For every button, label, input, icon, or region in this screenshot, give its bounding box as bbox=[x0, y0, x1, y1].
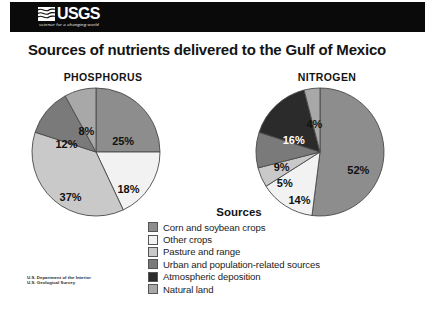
usgs-wave-icon bbox=[38, 7, 55, 21]
legend-item-label: Atmospheric deposition bbox=[163, 271, 261, 282]
usgs-wordmark: USGS bbox=[57, 6, 100, 21]
pie-slice[interactable] bbox=[312, 88, 384, 216]
pie-chart-nitrogen: NITROGEN 52%14%5%9%16%4% bbox=[252, 71, 402, 218]
legend-swatch bbox=[148, 259, 158, 269]
footer-survey: U.S. Geological Survey bbox=[27, 280, 91, 285]
legend-item-label: Corn and soybean crops bbox=[163, 222, 265, 233]
usgs-header-bar: USGS science for a changing world bbox=[10, 2, 425, 32]
legend-item: Urban and population-related sources bbox=[148, 258, 378, 270]
legend-item: Atmospheric deposition bbox=[148, 271, 378, 283]
usgs-logo-row: USGS bbox=[38, 6, 100, 21]
legend-swatch bbox=[148, 247, 158, 257]
page-title: Sources of nutrients delivered to the Gu… bbox=[28, 41, 386, 58]
legend-item: Other crops bbox=[148, 233, 378, 245]
legend-swatch bbox=[148, 272, 158, 282]
legend-swatch bbox=[148, 284, 158, 294]
legend-item-label: Natural land bbox=[163, 284, 214, 295]
pie-slice[interactable] bbox=[96, 88, 160, 152]
chart-title-phosphorus: PHOSPHORUS bbox=[28, 71, 178, 83]
pie-svg-nitrogen bbox=[252, 86, 402, 218]
agency-footer: U.S. Department of the Interior U.S. Geo… bbox=[27, 275, 91, 286]
usgs-tagline: science for a changing world bbox=[39, 22, 99, 27]
legend-title: Sources bbox=[148, 206, 378, 218]
legend-item-label: Pasture and range bbox=[163, 246, 240, 257]
legend-item: Corn and soybean crops bbox=[148, 221, 378, 233]
legend-swatch bbox=[148, 222, 158, 232]
legend-item-label: Urban and population-related sources bbox=[163, 259, 320, 270]
usgs-logo: USGS science for a changing world bbox=[38, 6, 100, 27]
pie-chart-phosphorus: PHOSPHORUS 25%18%37%12%8% bbox=[28, 71, 178, 218]
legend-item-label: Other crops bbox=[163, 234, 212, 245]
legend: Sources Corn and soybean cropsOther crop… bbox=[148, 206, 378, 295]
pie-wrap-nitrogen: 52%14%5%9%16%4% bbox=[252, 86, 402, 218]
pie-svg-phosphorus bbox=[28, 86, 178, 218]
legend-swatch bbox=[148, 235, 158, 245]
legend-item: Natural land bbox=[148, 283, 378, 295]
pie-wrap-phosphorus: 25%18%37%12%8% bbox=[28, 86, 178, 218]
legend-item-list: Corn and soybean cropsOther cropsPasture… bbox=[148, 221, 378, 295]
legend-item: Pasture and range bbox=[148, 246, 378, 258]
chart-title-nitrogen: NITROGEN bbox=[252, 71, 402, 83]
